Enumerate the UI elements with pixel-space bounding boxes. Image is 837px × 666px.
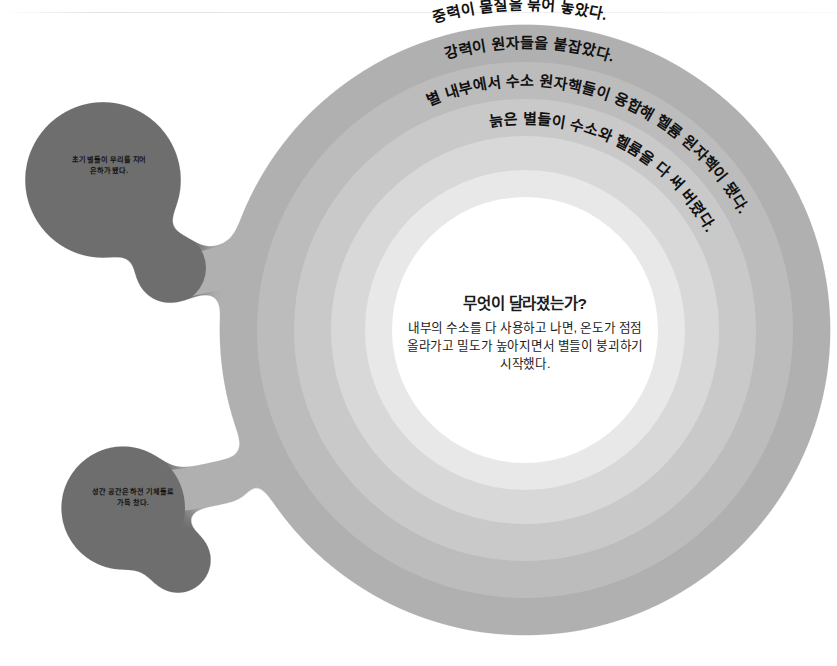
bubble-1-line-1: 초기 별들이 무리를 지어 bbox=[36, 155, 182, 166]
center-body-line-1: 내부의 수소를 다 사용하고 나면, 온도가 점점 bbox=[350, 319, 700, 337]
bubble-2-line-2: 가득 찼다. bbox=[60, 498, 206, 509]
ring-label-1-text: 중력이 물질을 묶어 놓았다. bbox=[431, 0, 610, 26]
center-text-block: 무엇이 달라졌는가? 내부의 수소를 다 사용하고 나면, 온도가 점점 올라가… bbox=[350, 293, 700, 374]
diagram-canvas: 중력이 물질을 묶어 놓았다. 강력이 원자들을 붙잡았다. 별 내부에서 수소… bbox=[0, 0, 837, 666]
bubble-2-lobe bbox=[144, 526, 212, 594]
bubble-2-label: 성간 공간은 하전 기체들로 가득 찼다. bbox=[60, 487, 206, 510]
bubble-2-line-1: 성간 공간은 하전 기체들로 bbox=[60, 487, 206, 498]
bubble-1-line-2: 은하가 됐다. bbox=[36, 166, 182, 177]
center-heading: 무엇이 달라졌는가? bbox=[350, 293, 700, 316]
center-body-line-3: 시작했다. bbox=[350, 355, 700, 373]
ring-label-1: 중력이 물질을 묶어 놓았다. bbox=[431, 0, 610, 26]
bubble-1-label: 초기 별들이 무리를 지어 은하가 됐다. bbox=[36, 155, 182, 178]
center-body-line-2: 올라가고 밀도가 높아지면서 별들이 붕괴하기 bbox=[350, 337, 700, 355]
